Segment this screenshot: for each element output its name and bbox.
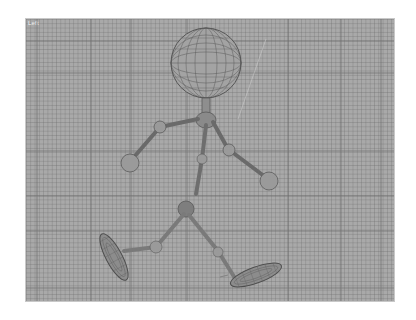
left-arm <box>213 122 268 179</box>
helper-marker <box>220 275 228 277</box>
pelvis <box>178 201 194 217</box>
left-foot <box>228 258 284 292</box>
viewport-left[interactable]: Left <box>25 18 395 302</box>
scene-canvas <box>26 19 395 302</box>
light-guide-line <box>238 39 266 119</box>
right-hand-ball <box>121 154 139 172</box>
left-knee <box>213 247 223 257</box>
head-sphere <box>171 28 241 98</box>
left-hand-ball <box>260 172 278 190</box>
left-elbow <box>223 144 235 156</box>
left-leg <box>189 215 238 283</box>
right-knee <box>150 241 162 253</box>
neck <box>202 98 210 113</box>
right-foot <box>95 230 134 283</box>
right-elbow <box>154 121 166 133</box>
